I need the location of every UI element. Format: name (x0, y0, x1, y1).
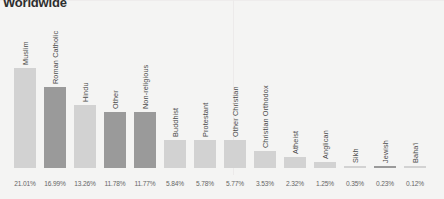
bar[interactable] (14, 68, 36, 168)
bar-slot: Other (100, 0, 130, 168)
bar-slot: Atheist (280, 0, 310, 168)
bar-category-label: Roman Catholic (52, 30, 59, 83)
bar-value-label: 3.53% (250, 180, 280, 187)
bar-category-label: Anglican (322, 130, 329, 159)
bar-category-label: Other (112, 90, 119, 109)
bar-value-label: 2.32% (280, 180, 310, 187)
bar-slot: Roman Catholic (40, 0, 70, 168)
bar[interactable] (314, 162, 336, 168)
bar[interactable] (194, 140, 216, 168)
bar-category-label: Hindu (82, 82, 89, 102)
bar-category-label: Jewish (382, 140, 389, 163)
bar-category-label: Baha'i (412, 142, 419, 163)
bar[interactable] (344, 166, 366, 168)
bar[interactable] (374, 166, 396, 168)
bar-value-label: 0.12% (400, 180, 430, 187)
bar[interactable] (284, 157, 306, 168)
bar-category-label: Atheist (292, 131, 299, 154)
bar-slot: Jewish (370, 0, 400, 168)
bar[interactable] (134, 112, 156, 168)
bar-value-label: 16.99% (40, 180, 70, 187)
bar-category-label: Non-religious (142, 64, 149, 108)
bar-category-label: Buddhist (172, 108, 179, 137)
chart-container: Worldwide Muslim21.01%Roman Catholic16.9… (0, 0, 444, 199)
bar-slot: Sikh (340, 0, 370, 168)
bar-value-label: 11.77% (130, 180, 160, 187)
bar-category-label: Muslim (22, 41, 29, 65)
bar[interactable] (164, 140, 186, 168)
bar-category-label: Christian Orthodox (262, 85, 269, 148)
bar-value-label: 13.26% (70, 180, 100, 187)
bar-category-label: Other Christian (232, 87, 239, 138)
bar[interactable] (74, 105, 96, 168)
bar[interactable] (104, 112, 126, 168)
bar-slot: Baha'i (400, 0, 430, 168)
bar-slot: Non-religious (130, 0, 160, 168)
bar-value-label: 5.77% (220, 180, 250, 187)
bar[interactable] (44, 87, 66, 168)
bar-value-label: 5.78% (190, 180, 220, 187)
bar-value-label: 0.35% (340, 180, 370, 187)
bar-value-label: 21.01% (10, 180, 40, 187)
bar-value-label: 11.78% (100, 180, 130, 187)
bar[interactable] (254, 151, 276, 168)
bar-slot: Muslim (10, 0, 40, 168)
bar-slot: Hindu (70, 0, 100, 168)
bar[interactable] (404, 166, 426, 168)
bar-value-label: 1.25% (310, 180, 340, 187)
bar-slot: Anglican (310, 0, 340, 168)
bar-slot: Protestant (190, 0, 220, 168)
bar-category-label: Sikh (352, 148, 359, 163)
bar-plot-area: Muslim21.01%Roman Catholic16.99%Hindu13.… (0, 0, 444, 199)
bar-slot: Other Christian (220, 0, 250, 168)
bar[interactable] (224, 140, 246, 168)
bar-slot: Buddhist (160, 0, 190, 168)
bar-value-label: 5.84% (160, 180, 190, 187)
bar-slot: Christian Orthodox (250, 0, 280, 168)
bar-value-label: 0.23% (370, 180, 400, 187)
bar-category-label: Protestant (202, 103, 209, 137)
